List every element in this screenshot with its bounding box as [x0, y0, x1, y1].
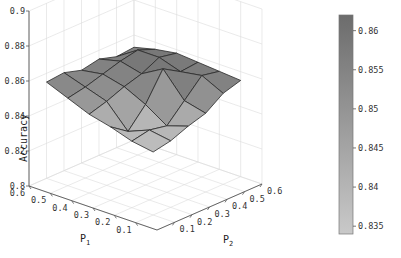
colorbar-tick-label: 0.86	[358, 26, 378, 36]
colorbar: 0.8350.840.8450.850.8550.86	[339, 15, 384, 234]
z-axis-label: Accuracy	[18, 114, 29, 162]
z-tick-label: 0.86	[5, 76, 25, 86]
p2-tick-label: 0.5	[250, 194, 265, 204]
p2-tick-label: 0.3	[215, 209, 230, 219]
p1-tick-label: 0.4	[52, 203, 67, 213]
colorbar-ticks: 0.8350.840.8450.850.8550.86	[353, 26, 384, 232]
p1-tick-label: 0.2	[95, 217, 110, 227]
colorbar-tick-label: 0.845	[358, 143, 384, 153]
colorbar-tick-label: 0.835	[358, 221, 384, 231]
p2-tick-label: 0.6	[267, 186, 282, 196]
p1-tick-label: 0.5	[31, 195, 46, 205]
colorbar-tick-label: 0.84	[358, 182, 378, 192]
colorbar-gradient	[339, 15, 353, 234]
y-axis-label: P2	[223, 234, 233, 248]
colorbar-tick-label: 0.855	[358, 65, 384, 75]
p1-tick-label: 0.3	[74, 210, 89, 220]
accuracy-surface	[47, 47, 241, 152]
p2-tick-label: 0.1	[180, 224, 195, 234]
p1-tick-label: 0.1	[116, 225, 131, 235]
x-axis-label: P1	[80, 233, 90, 247]
surface-chart: 0.80.820.840.860.880.90.10.20.30.40.50.6…	[0, 0, 401, 258]
z-tick-label: 0.9	[10, 6, 25, 16]
p2-tick-label: 0.2	[197, 217, 212, 227]
colorbar-tick-label: 0.85	[358, 104, 378, 114]
p1-tick-label: 0.6	[10, 188, 25, 198]
z-tick-label: 0.88	[5, 41, 25, 51]
p2-tick-label: 0.4	[232, 201, 247, 211]
